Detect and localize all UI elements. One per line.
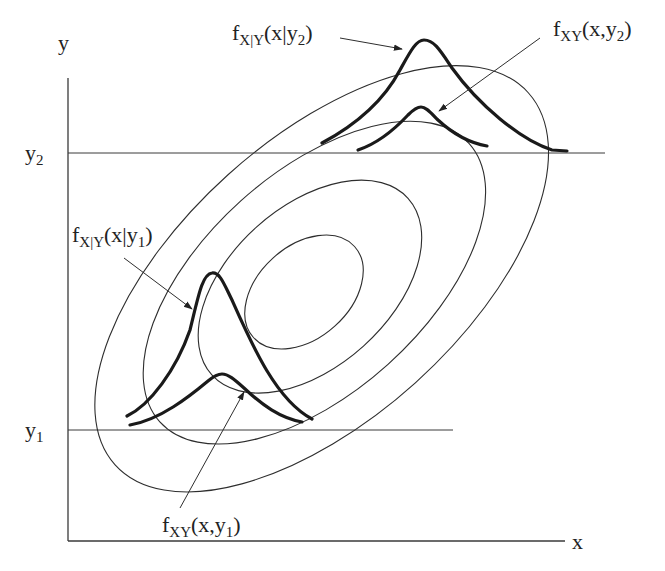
leader-arrow-joint-y2 xyxy=(439,38,540,111)
x-axis-label: x xyxy=(572,529,583,554)
axes: x y xyxy=(58,30,583,554)
joint-density-diagram: x y y2 y1 fX|Y(x|y2) f xyxy=(0,0,665,571)
leader-arrow-conditional-y2 xyxy=(340,38,402,49)
annotation-conditional-y1: fX|Y(x|y1) xyxy=(72,222,192,309)
y2-level-label: y2 xyxy=(25,140,44,168)
conditional-density-curve-y1 xyxy=(127,273,312,419)
joint-density-curve-y2 xyxy=(358,107,487,150)
label-joint-y2: fXY(x,y2) xyxy=(553,16,632,44)
density-contours xyxy=(21,0,622,569)
leader-arrow-conditional-y1 xyxy=(124,258,192,309)
y-axis-label: y xyxy=(58,30,69,55)
y1-level-label: y1 xyxy=(25,417,44,445)
contour-ellipse-2 xyxy=(158,139,461,435)
annotation-conditional-y2: fX|Y(x|y2) xyxy=(232,20,402,49)
annotation-joint-y1: fXY(x,y1) xyxy=(162,392,244,540)
label-conditional-y1: fX|Y(x|y1) xyxy=(72,222,153,250)
annotation-joint-y2: fXY(x,y2) xyxy=(439,16,632,111)
label-conditional-y2: fX|Y(x|y2) xyxy=(232,20,313,48)
contour-ellipse-4 xyxy=(21,0,622,569)
label-joint-y1: fXY(x,y1) xyxy=(162,512,241,540)
level-lines: y2 y1 xyxy=(25,140,605,445)
contour-ellipse-3 xyxy=(86,62,542,504)
joint-density-curve-y1 xyxy=(130,374,302,425)
